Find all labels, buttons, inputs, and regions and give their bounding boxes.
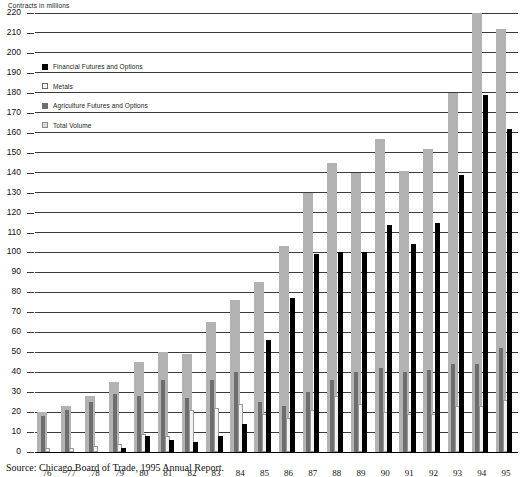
y-tick-label-150: 150 <box>0 148 21 157</box>
bar-financial-80 <box>145 436 150 452</box>
y-tick-label-210: 210 <box>0 28 21 37</box>
y-tick-mark-80 <box>27 292 34 293</box>
y-tick-label-80: 80 <box>0 287 21 296</box>
x-tick-label-86: 86 <box>277 468 301 477</box>
y-tick-mark-50 <box>27 352 34 353</box>
y-tick-label-160: 160 <box>0 128 21 137</box>
legend-item-0: Financial Futures and Options <box>42 63 143 70</box>
bar-group-92 <box>422 13 446 452</box>
bar-agriculture-77 <box>65 410 69 452</box>
y-tick-mark-20 <box>27 412 34 413</box>
y-tick-mark-130 <box>27 193 34 194</box>
bar-group-86 <box>278 13 302 452</box>
y-tick-mark-100 <box>27 252 34 253</box>
y-tick-label-170: 170 <box>0 108 21 117</box>
bar-financial-83 <box>218 436 223 452</box>
y-tick-mark-60 <box>27 332 34 333</box>
bar-group-93 <box>447 13 471 452</box>
legend-item-2: Agriculture Futures and Options <box>42 102 148 109</box>
plot-area: 0102030405060708090100110120130140150160… <box>35 13 518 452</box>
y-tick-mark-40 <box>27 372 34 373</box>
x-tick-label-92: 92 <box>421 468 445 477</box>
y-tick-label-50: 50 <box>0 347 21 356</box>
gridline-0 <box>35 452 518 453</box>
y-tick-label-0: 0 <box>0 447 21 456</box>
y-tick-mark-120 <box>27 213 34 214</box>
y-tick-mark-170 <box>27 113 34 114</box>
bar-metals-76 <box>45 448 50 452</box>
y-tick-mark-90 <box>27 272 34 273</box>
bar-metals-78 <box>93 446 98 452</box>
source-note: Source: Chicago Board of Trade, 1995 Ann… <box>6 462 224 473</box>
y-tick-label-20: 20 <box>0 407 21 416</box>
y-tick-label-30: 30 <box>0 387 21 396</box>
bar-financial-91 <box>411 244 416 452</box>
bar-financial-88 <box>338 252 343 452</box>
legend-label-3: Total Volume <box>53 122 91 129</box>
y-tick-mark-200 <box>27 53 34 54</box>
y-tick-mark-10 <box>27 432 34 433</box>
bar-financial-89 <box>362 252 367 452</box>
bar-group-79 <box>108 13 132 452</box>
x-tick-label-87: 87 <box>301 468 325 477</box>
bar-financial-93 <box>459 175 464 452</box>
bar-group-95 <box>495 13 519 452</box>
bar-group-87 <box>302 13 326 452</box>
bar-group-91 <box>398 13 422 452</box>
x-tick-label-94: 94 <box>470 468 494 477</box>
y-tick-mark-110 <box>27 233 34 234</box>
bar-group-78 <box>84 13 108 452</box>
y-tick-label-120: 120 <box>0 208 21 217</box>
bar-financial-94 <box>483 95 488 452</box>
bar-group-80 <box>133 13 157 452</box>
bar-chart: Contracts in millions 010203040506070809… <box>0 0 527 477</box>
x-tick-label-93: 93 <box>446 468 470 477</box>
legend-item-3: Total Volume <box>42 122 91 129</box>
bar-financial-79 <box>121 448 126 452</box>
legend-swatch-white <box>42 83 48 89</box>
bar-group-88 <box>326 13 350 452</box>
bar-financial-95 <box>507 129 512 452</box>
y-tick-mark-160 <box>27 133 34 134</box>
y-tick-label-130: 130 <box>0 188 21 197</box>
y-tick-label-180: 180 <box>0 88 21 97</box>
bar-agriculture-76 <box>41 416 45 452</box>
legend-swatch-lightgray <box>42 122 48 128</box>
bar-group-90 <box>374 13 398 452</box>
bar-financial-92 <box>435 223 440 452</box>
bar-financial-85 <box>266 340 271 452</box>
bar-group-83 <box>205 13 229 452</box>
y-tick-mark-0 <box>27 452 34 453</box>
y-tick-label-90: 90 <box>0 267 21 276</box>
bar-group-81 <box>157 13 181 452</box>
legend-swatch-darkgray <box>42 103 48 109</box>
bar-financial-82 <box>193 442 198 452</box>
x-tick-label-84: 84 <box>228 468 252 477</box>
legend-item-1: Metals <box>42 83 73 90</box>
bar-financial-86 <box>290 298 295 452</box>
legend-label-1: Metals <box>53 83 73 90</box>
bar-group-94 <box>471 13 495 452</box>
legend-label-0: Financial Futures and Options <box>53 63 143 70</box>
bar-group-84 <box>229 13 253 452</box>
y-tick-label-70: 70 <box>0 307 21 316</box>
y-tick-mark-180 <box>27 93 34 94</box>
y-tick-mark-150 <box>27 153 34 154</box>
y-tick-label-140: 140 <box>0 168 21 177</box>
x-tick-label-85: 85 <box>252 468 276 477</box>
x-tick-label-90: 90 <box>373 468 397 477</box>
bar-financial-87 <box>314 254 319 452</box>
y-tick-mark-140 <box>27 173 34 174</box>
bar-group-77 <box>60 13 84 452</box>
bar-group-89 <box>350 13 374 452</box>
bar-group-82 <box>181 13 205 452</box>
bar-metals-77 <box>69 448 74 452</box>
x-tick-label-89: 89 <box>349 468 373 477</box>
y-tick-mark-70 <box>27 312 34 313</box>
y-tick-label-110: 110 <box>0 228 21 237</box>
bar-group-85 <box>253 13 277 452</box>
y-tick-label-10: 10 <box>0 427 21 436</box>
y-tick-mark-190 <box>27 73 34 74</box>
y-tick-mark-30 <box>27 392 34 393</box>
bar-group-76 <box>36 13 60 452</box>
